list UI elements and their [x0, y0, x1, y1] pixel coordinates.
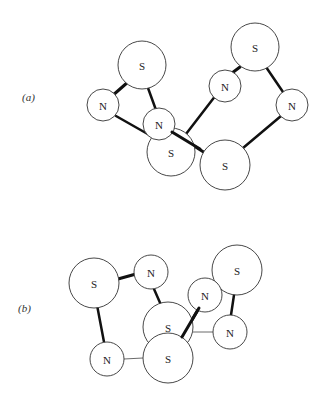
atom-label: N: [201, 290, 209, 302]
panel-b: (b) S S S S N N N N: [18, 245, 262, 383]
s4n4-structure-diagram: (a) S S S S N N N N (b): [0, 0, 328, 397]
atom-label: N: [103, 354, 111, 366]
atom-label: S: [139, 60, 145, 72]
bond-a-s1-n2: [148, 88, 156, 110]
panel-b-label: (b): [18, 302, 31, 315]
bond-a-s2-n3: [186, 95, 216, 134]
bond-b-s4-n4: [231, 295, 234, 315]
atom-label: S: [165, 322, 171, 334]
panel-a: (a) S S S S N N N N: [22, 23, 308, 190]
bond-b-n2-s3: [124, 358, 143, 359]
atom-label: S: [252, 42, 258, 54]
atom-label: S: [222, 160, 228, 172]
atom-label: N: [221, 81, 229, 93]
bond-b-s1-n1: [118, 274, 136, 279]
bond-a-n4-s4: [243, 116, 281, 148]
atom-label: S: [234, 265, 240, 277]
bond-b-s1-n2: [97, 305, 104, 342]
atom-label: S: [168, 147, 174, 159]
panel-a-label: (a): [22, 91, 35, 104]
atom-label: N: [99, 100, 107, 112]
atom-label: S: [165, 353, 171, 365]
atom-label: N: [226, 327, 234, 339]
bond-a-s3-n4: [266, 67, 283, 92]
atom-label: N: [155, 119, 163, 131]
bond-b-n1-s2: [154, 289, 161, 305]
atom-label: N: [147, 267, 155, 279]
atom-label: S: [91, 278, 97, 290]
atom-label: N: [288, 100, 296, 112]
